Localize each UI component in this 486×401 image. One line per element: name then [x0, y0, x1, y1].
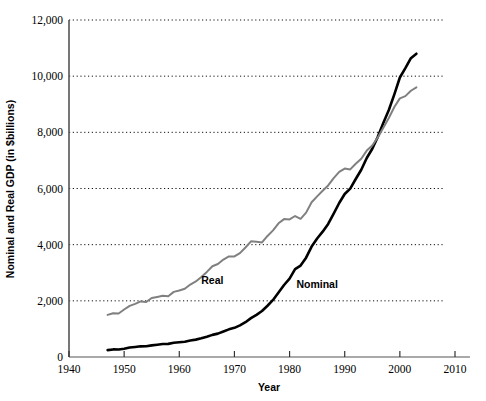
y-tick-label-2000: 2,000: [37, 295, 63, 308]
y-tick-label-12000: 12,000: [31, 14, 63, 27]
chart-plot-area: 02,0004,0006,0008,00010,00012,000 194019…: [0, 0, 486, 401]
x-axis-title: Year: [258, 381, 280, 393]
x-tick-label-1940: 1940: [58, 363, 81, 375]
series-inline-labels-group: NominalReal: [201, 274, 338, 290]
x-tick-label-2010: 2010: [444, 363, 467, 375]
y-tick-label-8000: 8,000: [37, 126, 63, 139]
series-label-real: Real: [201, 274, 223, 286]
series-paths-group: [108, 54, 417, 350]
y-tick-label-6000: 6,000: [37, 183, 63, 196]
x-tick-label-1990: 1990: [333, 363, 356, 375]
x-tick-label-2000: 2000: [388, 363, 411, 375]
series-line-real: [108, 87, 417, 314]
x-tick-label-1960: 1960: [168, 363, 191, 375]
x-axis-ticks-group: [69, 351, 455, 357]
gdp-line-chart: 02,0004,0006,0008,00010,00012,000 194019…: [0, 0, 486, 401]
y-tick-label-0: 0: [57, 351, 63, 363]
x-tick-label-1950: 1950: [113, 363, 136, 375]
y-tick-label-10000: 10,000: [31, 70, 63, 83]
series-line-nominal: [108, 54, 417, 350]
y-tick-label-4000: 4,000: [37, 239, 63, 252]
x-tick-label-1970: 1970: [223, 363, 246, 375]
y-axis-title: Nominal and Real GDP (in $billions): [4, 100, 16, 278]
series-label-nominal: Nominal: [296, 278, 338, 290]
gridlines-group: [69, 20, 445, 301]
x-axis-tick-labels-group: 19401950196019701980199020002010: [58, 363, 467, 375]
x-tick-label-1980: 1980: [278, 363, 301, 375]
y-axis-tick-labels-group: 02,0004,0006,0008,00010,00012,000: [31, 14, 63, 363]
